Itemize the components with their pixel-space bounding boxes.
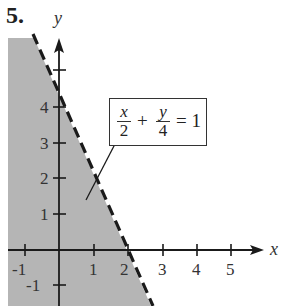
- y-tick-label: -1: [26, 276, 40, 295]
- equals-one: = 1: [176, 110, 201, 132]
- x-tick-label: 4: [192, 260, 201, 279]
- y-tick-label: 1: [40, 205, 49, 224]
- fraction-numerator: y: [156, 103, 170, 122]
- fraction-denominator: 4: [156, 122, 170, 140]
- equation-box: x 2 + y 4 = 1: [109, 98, 207, 146]
- x-tick-label: 5: [226, 260, 235, 279]
- y-tick-label: 3: [40, 134, 49, 153]
- x-tick-label: 1: [89, 260, 98, 279]
- fraction-denominator: 2: [117, 122, 131, 140]
- y-tick-label: 2: [40, 169, 49, 188]
- problem-number: 5.: [6, 2, 24, 29]
- y-axis-label: y: [52, 8, 62, 28]
- x-tick-label: 3: [158, 260, 167, 279]
- shaded-region: [8, 38, 151, 306]
- fraction-x-over-2: x 2: [117, 103, 131, 140]
- y-tick-label: 4: [40, 98, 49, 117]
- fraction-numerator: x: [117, 103, 131, 122]
- inequality-graph: -1 1 2 3 4 5 -1 1 2 3 4 x y: [0, 0, 282, 306]
- fraction-y-over-4: y 4: [156, 103, 170, 140]
- x-axis-label: x: [269, 239, 278, 259]
- x-tick-label: 2: [120, 260, 129, 279]
- x-tick-label: -1: [12, 260, 26, 279]
- graph-figure: -1 1 2 3 4 5 -1 1 2 3 4 x y 5. x 2 + y 4…: [0, 0, 282, 306]
- plus-sign: +: [137, 110, 148, 132]
